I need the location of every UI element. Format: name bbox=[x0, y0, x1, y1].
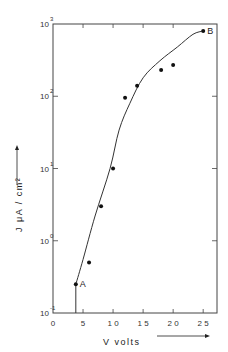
data-point bbox=[74, 282, 78, 286]
data-point bbox=[99, 204, 103, 208]
data-point bbox=[87, 260, 91, 264]
y-tick-label: 10-1 bbox=[40, 305, 56, 318]
x-tick-label: 0 bbox=[51, 319, 56, 328]
y-tick-base: 10 bbox=[40, 20, 49, 29]
data-point bbox=[159, 68, 163, 72]
data-point bbox=[123, 96, 127, 100]
chart: 051 01 52 02 510-1100101102103 AB V volt… bbox=[0, 0, 228, 352]
y-tick-base: 10 bbox=[40, 237, 49, 246]
y-axis-label: J μA / cm² bbox=[14, 177, 24, 232]
y-axis-arrow-head bbox=[15, 145, 19, 150]
x-tick-label: 2 0 bbox=[168, 319, 180, 328]
y-tick-base: 10 bbox=[40, 165, 49, 174]
data-point bbox=[201, 29, 205, 33]
x-tick-label: 1 5 bbox=[138, 319, 150, 328]
plot-frame bbox=[53, 24, 217, 313]
ticks: 051 01 52 02 510-1100101102103 bbox=[40, 16, 217, 328]
y-tick-exponent: -1 bbox=[50, 305, 56, 311]
x-tick-label: 1 0 bbox=[108, 319, 120, 328]
x-axis-label: V volts bbox=[103, 337, 141, 347]
data-point bbox=[111, 167, 115, 171]
x-tick-label: 2 5 bbox=[198, 319, 210, 328]
y-tick-base: 10 bbox=[40, 309, 49, 318]
annotations: AB bbox=[80, 26, 213, 289]
fit-curve bbox=[76, 31, 203, 313]
y-tick-base: 10 bbox=[40, 92, 49, 101]
axes bbox=[53, 24, 217, 313]
y-tick-label: 102 bbox=[40, 88, 54, 101]
y-tick-label: 101 bbox=[40, 161, 54, 174]
data-point bbox=[135, 84, 139, 88]
x-axis-arrow-head bbox=[205, 334, 210, 338]
y-tick-exponent: 3 bbox=[50, 16, 54, 22]
annotation-b: B bbox=[207, 26, 213, 36]
x-tick-label: 5 bbox=[81, 319, 86, 328]
annotation-a: A bbox=[80, 279, 86, 289]
fit-curve-group bbox=[76, 31, 203, 313]
y-tick-label: 103 bbox=[40, 16, 54, 29]
data-point bbox=[171, 63, 175, 67]
y-tick-label: 100 bbox=[40, 233, 54, 246]
data-points bbox=[74, 29, 205, 286]
